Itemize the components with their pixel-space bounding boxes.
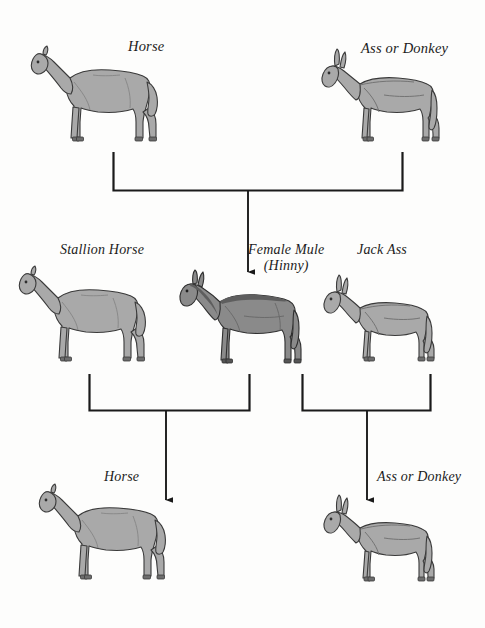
label-stallion-horse: Stallion Horse xyxy=(60,242,144,258)
donkey-illustration xyxy=(318,492,444,596)
label-female-mule-line1: Female Mule xyxy=(248,242,324,258)
donkey-illustration xyxy=(318,48,450,156)
label-female-mule-line2: (Hinny) xyxy=(248,258,324,274)
animal-female-mule-hinny xyxy=(178,268,312,378)
animal-donkey-parent xyxy=(318,48,450,156)
label-parent-donkey: Ass or Donkey xyxy=(361,40,448,56)
label-parent-horse: Horse xyxy=(128,38,164,54)
animal-offspring-horse xyxy=(38,480,178,592)
diagram-canvas: Horse xyxy=(0,0,485,628)
label-female-mule-hinny: Female Mule (Hinny) xyxy=(248,242,324,273)
label-jack-ass: Jack Ass xyxy=(357,242,407,258)
horse-illustration xyxy=(18,262,158,374)
animal-stallion-horse xyxy=(18,262,158,374)
label-offspring-donkey: Ass or Donkey xyxy=(377,469,461,485)
horse-illustration xyxy=(30,42,170,154)
donkey-illustration xyxy=(318,272,444,376)
animal-horse-parent xyxy=(30,42,170,154)
label-offspring-horse: Horse xyxy=(104,469,139,485)
mule-illustration xyxy=(178,268,312,378)
horse-illustration xyxy=(38,480,178,592)
animal-offspring-donkey xyxy=(318,492,444,596)
animal-jack-ass xyxy=(318,272,444,376)
